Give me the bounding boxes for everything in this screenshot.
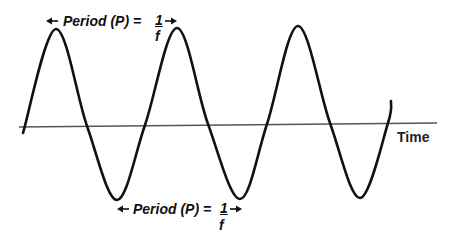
sine-wave — [23, 26, 391, 200]
time-axis — [19, 123, 437, 127]
bottom-period-denominator: f — [219, 218, 224, 232]
sine-wave-diagram: Period (P) = 1 f Period (P) = 1 f Time — [0, 0, 457, 238]
bottom-period-numerator: 1 — [220, 201, 228, 215]
top-period-label: Period (P) = — [63, 14, 141, 28]
wave-canvas — [0, 0, 457, 238]
bottom-period-label: Period (P) = — [133, 202, 211, 216]
time-axis-label: Time — [397, 130, 429, 144]
top-period-denominator: f — [155, 29, 160, 43]
top-period-numerator: 1 — [155, 13, 163, 27]
